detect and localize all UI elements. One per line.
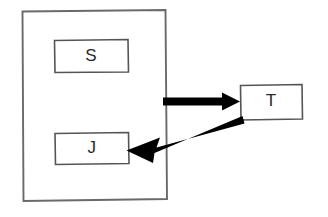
diagram-svg: S J T [0,0,328,217]
outer-container-box [23,10,168,201]
edge-container-to-t[interactable] [163,93,240,111]
node-s[interactable]: S [55,40,129,73]
node-s-label: S [85,46,97,65]
edge-container-to-t-arrow [163,93,240,111]
node-t[interactable]: T [241,85,303,121]
node-j-label: J [88,138,97,157]
diagram-canvas: S J T [0,0,328,217]
node-t-label: T [266,91,277,110]
node-j[interactable]: J [55,133,129,165]
